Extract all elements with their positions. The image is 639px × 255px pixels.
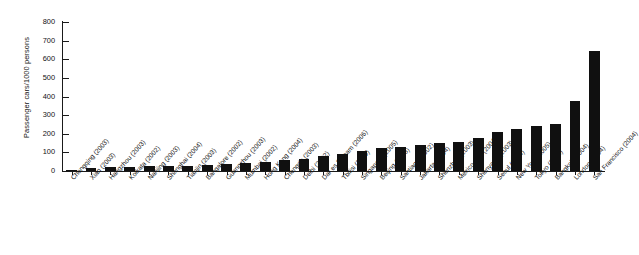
y-axis-tick-label: 100	[31, 148, 55, 155]
bar-series	[62, 22, 604, 171]
bar-slot	[318, 22, 329, 171]
y-axis-tick-label: 700	[31, 37, 55, 44]
y-axis-tick-label: 500	[31, 74, 55, 81]
y-axis-tick	[62, 171, 69, 172]
y-axis-tick-label: 300	[31, 111, 55, 118]
y-axis-tick-label: 400	[31, 93, 55, 100]
bar-slot	[66, 22, 77, 171]
bar-slot	[105, 22, 116, 171]
y-axis-tick-label: 800	[31, 18, 55, 25]
y-axis-tick-label: 0	[31, 167, 55, 174]
y-axis-tick-label: 200	[31, 130, 55, 137]
y-axis-tick-label: 600	[31, 55, 55, 62]
